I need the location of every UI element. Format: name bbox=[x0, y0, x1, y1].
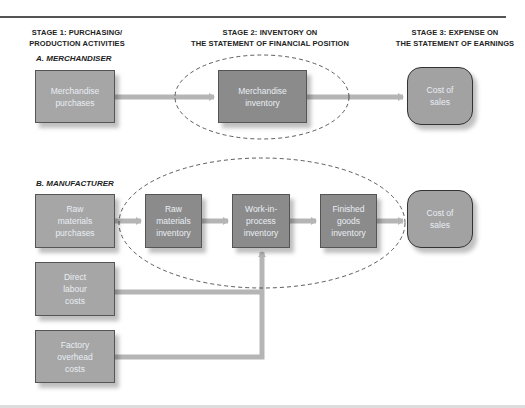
raw-materials-purchases-box: Rawmaterialspurchases bbox=[35, 194, 115, 248]
merchandiser-cost-of-sales-box: Cost ofsales bbox=[407, 67, 473, 125]
factory-overhead-costs-box: Factoryoverheadcosts bbox=[35, 330, 115, 383]
wip-inventory-box: Work-in-processinventory bbox=[232, 194, 290, 248]
direct-labour-costs-box: Directlabourcosts bbox=[35, 262, 115, 316]
manufacturer-title: B. MANUFACTURER bbox=[36, 179, 114, 188]
merchandise-purchases-box: Merchandisepurchases bbox=[35, 70, 115, 123]
manufacturer-cost-of-sales-box: Cost ofsales bbox=[407, 190, 473, 248]
finished-goods-inventory-box: Finishedgoodsinventory bbox=[320, 194, 377, 248]
raw-materials-inventory-box: Rawmaterialsinventory bbox=[145, 194, 202, 248]
merchandiser-title: A. MERCHANDISER bbox=[36, 54, 112, 63]
merchandise-inventory-box: Merchandiseinventory bbox=[218, 70, 307, 123]
